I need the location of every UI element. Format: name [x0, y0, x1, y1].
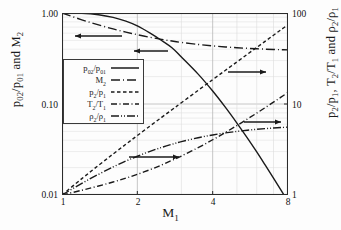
- legend: p02/p01 M2 p2/p1 T2/T1 ρ2/ρ1: [63, 59, 144, 124]
- x-tick-2: 2: [128, 197, 148, 207]
- legend-label-t2t1: T2/T1: [87, 99, 106, 109]
- legend-key-p2p1: [110, 87, 140, 97]
- arrow-to-right-axis-t2t1: [244, 119, 281, 124]
- series-rho2-rho1: [62, 127, 288, 195]
- legend-label-p2p1: p2/p1: [89, 87, 106, 97]
- legend-key-m2: [110, 75, 140, 85]
- x-axis-title: M1: [0, 205, 341, 221]
- y-tick-left-0.1: 0.10: [28, 100, 58, 110]
- legend-key-p02p01: [110, 63, 140, 73]
- x-tick-8: 8: [278, 197, 298, 207]
- y-axis-left-title: p02/p01 and M2: [9, 0, 24, 160]
- y-axis-right-title: p2/p1, T2/T1 and ρ2/ρ1: [324, 0, 339, 158]
- legend-item-t2t1: T2/T1: [66, 98, 140, 110]
- x-tick-1: 1: [53, 197, 73, 207]
- arrow-to-left-axis-m2: [75, 33, 122, 38]
- legend-item-m2: M2: [66, 74, 140, 86]
- legend-item-p2p1: p2/p1: [66, 86, 140, 98]
- chart-figure: p02/p01 and M2 p2/p1, T2/T1 and ρ2/ρ1 M1…: [0, 0, 341, 230]
- legend-label-rho2rho1: ρ2/ρ1: [89, 111, 106, 121]
- y-tick-right-10: 10: [292, 100, 318, 110]
- y-tick-left-1: 1.00: [28, 9, 58, 19]
- arrow-to-right-axis-p2p1: [228, 69, 266, 74]
- series-m2: [62, 13, 288, 50]
- legend-item-p02p01: p02/p01: [66, 62, 140, 74]
- legend-label-p02p01: p02/p01: [83, 63, 106, 73]
- y-tick-right-100: 100: [292, 9, 318, 19]
- legend-label-m2: M2: [95, 75, 106, 85]
- x-tick-4: 4: [203, 197, 223, 207]
- legend-item-rho2rho1: ρ2/ρ1: [66, 110, 140, 122]
- arrow-to-right-axis-rho: [129, 154, 179, 159]
- legend-key-rho2rho1: [110, 111, 140, 121]
- legend-key-t2t1: [110, 99, 140, 109]
